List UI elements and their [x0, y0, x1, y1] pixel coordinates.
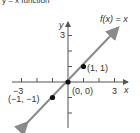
x-tick-label-3: 3	[112, 86, 117, 96]
y-tick-label-3: 3	[60, 30, 65, 40]
header-partial-text: y = x function	[2, 0, 49, 5]
point-one-one	[81, 64, 86, 69]
point-label-neg-one: (−1, −1)	[8, 94, 40, 104]
point-label-one-one: (1, 1)	[87, 63, 108, 73]
x-axis-label: x	[123, 85, 129, 95]
function-graph: y = x function f(x) = x y 3 x −3 3 (0, 0…	[0, 0, 140, 133]
point-neg-one-neg-one	[50, 95, 55, 100]
point-origin	[65, 79, 70, 84]
function-label: f(x) = x	[100, 14, 128, 24]
function-line	[26, 29, 117, 124]
y-ticks	[68, 36, 72, 114]
y-axis-label: y	[58, 20, 64, 30]
point-label-origin: (0, 0)	[72, 86, 93, 96]
